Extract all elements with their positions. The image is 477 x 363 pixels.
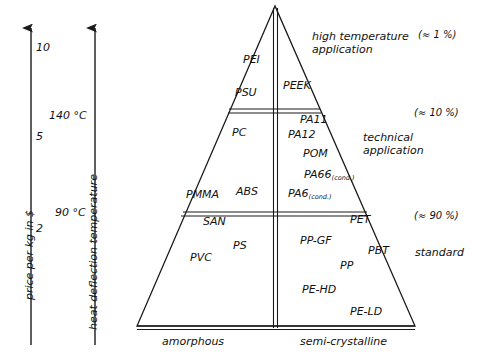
polymer-name: POM — [303, 147, 328, 160]
diagram-linework — [0, 0, 477, 363]
center-divider — [274, 8, 278, 328]
percent-technical: (≈ 10 %) — [414, 107, 459, 119]
polymer-label-pa6: PA6(cond.) — [288, 188, 332, 201]
polymer-name: PEEK — [283, 79, 311, 92]
polymer-label-ps: PS — [233, 240, 247, 253]
polymer-condition-subscript: (cond.) — [332, 174, 355, 182]
polymer-name: PBT — [368, 244, 389, 257]
polymer-label-san: SAN — [203, 216, 226, 229]
polymer-label-pp: PP — [340, 260, 353, 273]
polymer-label-pvc: PVC — [190, 252, 212, 265]
annotation-technical-line2: application — [363, 145, 424, 158]
polymer-label-pei: PEI — [243, 54, 260, 67]
polymer-name: PET — [350, 213, 370, 226]
polymer-label-ppgf: PP-GF — [300, 235, 332, 248]
polymer-name: PP-GF — [300, 234, 332, 247]
polymer-pyramid-diagram: price per kg in $ heat deflection temper… — [0, 0, 477, 363]
price-tick-2: 2 — [36, 223, 43, 236]
base-category-semi-crystalline: semi-crystalline — [300, 336, 387, 349]
annotation-high-temperature-line2: application — [312, 44, 373, 57]
polymer-label-pehd: PE-HD — [302, 284, 336, 297]
polymer-name: PA6 — [288, 187, 309, 200]
polymer-label-pa12: PA12 — [288, 129, 316, 142]
temperature-tick-140c: 140 °C — [49, 110, 87, 123]
polymer-label-pbt: PBT — [368, 245, 389, 258]
percent-standard: (≈ 90 %) — [414, 210, 459, 222]
polymer-name: SAN — [203, 215, 226, 228]
pyramid-outline — [137, 6, 415, 326]
polymer-name: PEI — [243, 53, 260, 66]
temperature-axis-title: heat deflection temperature — [88, 174, 101, 330]
annotation-standard: standard — [415, 247, 464, 260]
annotation-technical-line1: technical — [363, 132, 413, 145]
polymer-label-peek: PEEK — [283, 80, 311, 93]
price-tick-10: 10 — [36, 42, 50, 55]
polymer-label-pom: POM — [303, 148, 328, 161]
polymer-name: PA11 — [300, 113, 328, 126]
polymer-name: PP — [340, 259, 353, 272]
polymer-label-pmma: PMMA — [186, 189, 219, 202]
percent-high-temperature: (≈ 1 %) — [418, 29, 456, 41]
polymer-label-psu: PSU — [235, 87, 257, 100]
price-tick-5: 5 — [36, 131, 43, 144]
polymer-name: PMMA — [186, 188, 219, 201]
polymer-condition-subscript: (cond.) — [309, 193, 332, 201]
pyramid-base-line — [137, 326, 415, 330]
polymer-label-pa66: PA66(cond.) — [304, 169, 355, 182]
polymer-label-abs: ABS — [236, 186, 258, 199]
polymer-name: PVC — [190, 251, 212, 264]
polymer-name: PC — [232, 126, 246, 139]
polymer-label-pa11: PA11 — [300, 114, 328, 127]
temperature-tick-90c: 90 °C — [55, 207, 86, 220]
polymer-label-peld: PE-LD — [350, 306, 382, 319]
polymer-name: PA66 — [304, 168, 332, 181]
polymer-label-pc: PC — [232, 127, 246, 140]
base-category-amorphous: amorphous — [162, 336, 224, 349]
price-axis-title: price per kg in $ — [24, 210, 37, 300]
polymer-name: PE-LD — [350, 305, 382, 318]
polymer-name: PS — [233, 239, 247, 252]
polymer-label-pet: PET — [350, 214, 370, 227]
polymer-name: PA12 — [288, 128, 316, 141]
polymer-name: ABS — [236, 185, 258, 198]
annotation-high-temperature-line1: high temperature — [312, 31, 409, 44]
polymer-name: PSU — [235, 86, 257, 99]
polymer-name: PE-HD — [302, 283, 336, 296]
